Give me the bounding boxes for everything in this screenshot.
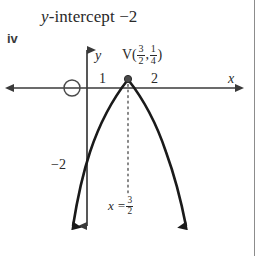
vertex-y-fraction: 14: [150, 44, 157, 66]
parabola-figure-panel: y-intercept −2 iv: [0, 0, 263, 256]
vertex-coordinate-label: V(32,14): [122, 44, 162, 66]
vertex-y-denominator: 4: [150, 55, 157, 67]
panel-right-border: [254, 0, 255, 256]
vertex-suffix: ): [158, 47, 163, 62]
vertex-comma: ,: [145, 47, 149, 62]
vertex-x-numerator: 3: [137, 44, 144, 55]
x-axis-label: x: [228, 72, 234, 86]
x-tick-label-2: 2: [151, 72, 158, 86]
axis-of-symmetry-numerator: 3: [126, 196, 133, 206]
axis-of-symmetry-denominator: 2: [126, 206, 133, 217]
axis-of-symmetry-prefix: x =: [108, 198, 126, 213]
y-intercept-tick-label: −2: [51, 158, 66, 172]
vertex-x-fraction: 32: [137, 44, 144, 66]
vertex-y-numerator: 1: [150, 44, 157, 55]
vertex-point-marker: [124, 75, 131, 82]
axis-of-symmetry-fraction: 32: [126, 196, 133, 217]
axis-of-symmetry-label: x =32: [108, 196, 134, 217]
y-axis-label: y: [95, 49, 101, 63]
vertex-prefix: V(: [122, 47, 137, 62]
x-tick-label-1: 1: [99, 72, 106, 86]
vertex-x-denominator: 2: [137, 55, 144, 67]
coordinate-graph-svg: [0, 0, 263, 256]
